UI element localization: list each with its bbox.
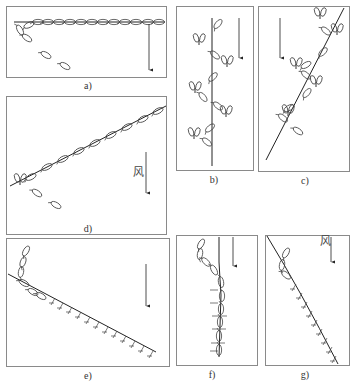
panel-e-drawing <box>8 245 156 358</box>
panel-a-drawing <box>14 19 165 71</box>
wind-label: 风 <box>320 235 331 248</box>
diagram-drawing: 风 <box>0 0 355 390</box>
panel-label-f: f) <box>209 369 216 380</box>
panel-label-a: a) <box>84 80 92 91</box>
panel-f-drawing <box>195 237 233 357</box>
panel-label-e: e) <box>84 370 92 381</box>
panel-label-d: d) <box>84 223 92 234</box>
panel-label-b: b) <box>210 174 218 185</box>
panel-label-c: c) <box>301 175 309 186</box>
panel-b-drawing <box>187 18 239 166</box>
panel-c-drawing <box>266 7 344 160</box>
panel-label-g: g) <box>301 369 309 380</box>
panel-g-drawing: 风 <box>267 235 338 364</box>
wind-label: 风 <box>133 166 144 179</box>
panel-d-drawing: 风 <box>10 106 166 210</box>
